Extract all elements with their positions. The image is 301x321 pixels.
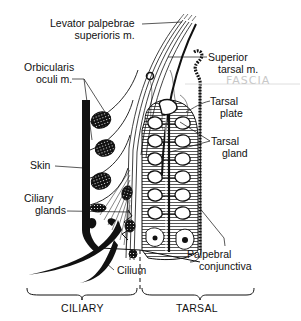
eyelid-diagram: Levator palpebrae superioris m. Orbicula… [0, 0, 301, 321]
label-tarsal-plate: Tarsal plate [210, 95, 243, 119]
orbicularis-bundle [129, 250, 137, 258]
label-line: Orbicularis [24, 61, 74, 73]
annotation-fascia: FASCIA [226, 74, 270, 87]
label-line: Ciliary [24, 192, 66, 204]
label-line: Tarsal [211, 135, 248, 147]
label-palpebral-conjunctiva: Palpebral conjunctiva [187, 248, 252, 272]
label-line: glands [24, 204, 66, 216]
label-line: Levator palpebrae [50, 17, 135, 29]
label-line: Tarsal [210, 95, 243, 107]
label-line: superioris m. [50, 29, 135, 41]
label-line: Cilium [117, 264, 146, 276]
ciliary-brace [27, 288, 137, 300]
cilium-hair [108, 218, 116, 226]
label-cilium: Cilium [117, 264, 146, 276]
label-orbicularis-oculi: Orbicularis oculi m. [24, 61, 74, 85]
orbicularis-bundle [89, 170, 113, 192]
orbicularis-bundle [90, 204, 106, 212]
label-skin: Skin [30, 159, 50, 171]
section-ciliary: CILIARY [61, 302, 104, 314]
label-line: conjunctiva [187, 260, 252, 272]
cilium-primary [28, 220, 122, 275]
label-line: plate [210, 107, 243, 119]
label-ciliary-glands: Ciliary glands [24, 192, 66, 216]
orbicularis-bundle [93, 137, 117, 159]
label-line: oculi m. [24, 73, 74, 85]
section-tarsal: TARSAL [176, 302, 218, 314]
label-line: Palpebral [187, 248, 252, 260]
label-line: Skin [30, 159, 50, 171]
tarsal-brace [142, 288, 254, 300]
label-tarsal-gland: Tarsal gland [211, 135, 248, 159]
label-superior-tarsal: Superior tarsal m. [208, 51, 258, 75]
label-line: Superior [208, 51, 258, 63]
label-line: gland [211, 147, 248, 159]
orbicularis-bundle [89, 109, 113, 131]
label-levator-palpebrae: Levator palpebrae superioris m. [50, 17, 135, 41]
